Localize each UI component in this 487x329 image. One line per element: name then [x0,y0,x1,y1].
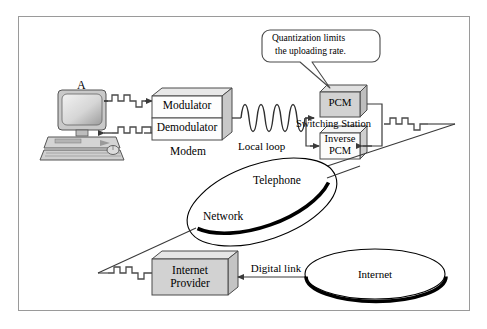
digital-signal-downstream [112,127,151,133]
callout-text-line1: Quantization limits [272,33,345,43]
digital-signal-provider-in [108,267,152,279]
local-loop-label: Local loop [238,140,285,152]
station-a-label: A [77,78,86,93]
internet-provider-label-line2: Provider [152,277,228,289]
modem-label: Modem [158,145,218,157]
internet-provider-label-line1: Internet [152,264,228,276]
diagram-artwork [0,0,487,329]
demodulator-label: Demodulator [154,121,220,133]
internet-label: Internet [340,268,410,280]
telephone-label: Telephone [253,174,301,186]
pcm-label: PCM [320,96,360,108]
digital-signal-trunk [384,118,428,130]
inverse-pcm-label-line1: Inverse [320,133,360,144]
digital-link-label: Digital link [239,262,313,274]
callout-text-line2: the uploading rate. [275,46,346,56]
digital-signal-upstream [104,95,151,107]
network-label: Network [203,210,243,222]
diagram-canvas: Quantization limits the uploading rate. … [0,0,487,329]
modulator-label: Modulator [160,99,214,111]
switching-station-label: Switching Station [296,118,371,129]
inverse-pcm-label-line2: PCM [320,145,360,156]
